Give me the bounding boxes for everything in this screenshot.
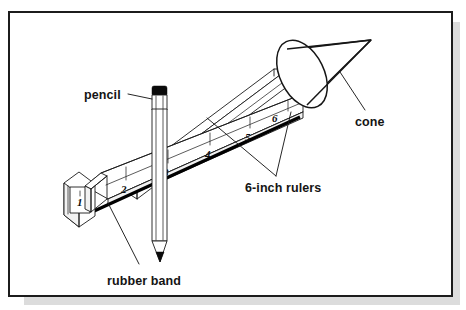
figure-container: 1 2 3 4 5 6 [0, 0, 466, 310]
pencil-eraser [152, 86, 167, 96]
label-6-inch-rulers: 6-inch rulers [245, 181, 321, 195]
ruler-tick-number-1: 1 [77, 196, 83, 208]
ruler-tick-number-6: 6 [272, 112, 278, 124]
frame-shadow-right [452, 22, 460, 305]
figure-frame [9, 12, 452, 296]
pencil-object [152, 86, 167, 262]
label-rubber-band: rubber band [107, 274, 181, 288]
label-cone: cone [355, 115, 385, 129]
frame-shadow [24, 296, 460, 305]
ruler-tick-number-4: 4 [204, 148, 211, 160]
ruler-tick-number-2: 2 [120, 183, 127, 195]
ruler-tick-number-5: 5 [245, 131, 251, 143]
technical-illustration: 1 2 3 4 5 6 [0, 0, 466, 310]
label-pencil: pencil [84, 88, 121, 102]
